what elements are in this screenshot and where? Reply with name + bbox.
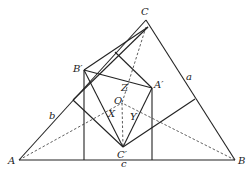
label-Y: Y (130, 111, 138, 122)
label-C: C (141, 6, 149, 17)
segment (84, 70, 123, 147)
segment (73, 27, 148, 100)
label-X: X (107, 108, 116, 119)
label-A: A (7, 155, 15, 166)
label-B-prime: B′ (72, 63, 83, 74)
segment (123, 88, 152, 147)
geometry-diagram: A B C A′ B′ C′ O X Y Z a b c (0, 0, 251, 188)
side-label-b: b (49, 110, 55, 121)
segment (146, 20, 235, 160)
label-A-prime: A′ (153, 79, 164, 90)
segment (84, 27, 148, 70)
dashed-segment (122, 103, 235, 160)
side-label-a: a (186, 71, 192, 82)
side-label-c: c (121, 158, 127, 169)
dashed-segment (122, 103, 123, 147)
segment (123, 99, 195, 147)
label-Z: Z (120, 82, 129, 93)
label-O: O (114, 95, 122, 106)
label-B: B (237, 155, 245, 166)
